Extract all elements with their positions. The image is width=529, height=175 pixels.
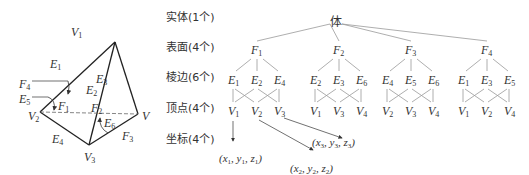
edge-node-E6: E6 [356,74,367,88]
label-E6: E6 [104,117,115,131]
coordinate-node-1: (x1, y1, z1) [219,153,262,166]
root-to-face-line [257,24,330,41]
vertex-to-coordinate-arrow [259,120,313,150]
face-to-edge-line [345,59,360,71]
vertex-node-V1: V1 [228,105,239,119]
label-V4: V [142,110,149,122]
coordinate-node-2: (x2, y2, z2) [290,163,333,175]
label-E3: E3 [96,73,107,87]
edge-node-E2: E2 [310,74,321,88]
label-F1: F1 [58,100,69,114]
face-node-F1: F1 [251,44,262,58]
edge-node-E5: E5 [405,74,416,88]
vertex-node-V2: V2 [481,105,492,119]
face-node-F3: F3 [405,44,416,58]
face-to-edge-line [466,59,481,71]
label-E4: E4 [52,133,63,147]
vertex-node-V4: V4 [428,105,439,119]
row-label: 棱边(6个) [166,72,215,83]
coordinate-node-3: (x3, y3, z3) [312,137,355,150]
face-to-edge-line [417,59,432,71]
edge-E3 [115,42,138,114]
root-solid-node: 体 [330,16,342,28]
row-label: 表面(4个) [166,42,215,53]
edge-node-E6: E6 [428,74,439,88]
root-to-face-line [342,24,411,41]
label-V3: V3 [84,151,95,165]
edge-node-E4: E4 [382,74,393,88]
vertex-node-V3: V3 [405,105,416,119]
edge-node-E2: E2 [251,74,262,88]
label-E1: E1 [50,58,61,72]
edge-node-E5: E5 [504,74,515,88]
vertex-to-coordinate-arrow [284,118,342,138]
label-F4: F4 [19,78,30,92]
row-label: 坐标(4个) [166,134,215,145]
face-to-edge-line [263,59,278,71]
vertex-node-V3: V3 [333,105,344,119]
vertex-node-V2: V2 [251,105,262,119]
edge-node-E4: E4 [274,74,285,88]
root-to-face-line [342,24,487,41]
solid-topology-diagram: V1V2V3VE1E2E3E4E5E6F1F2F3F4实体(1个)表面(4个)棱… [0,0,529,175]
label-F3: F3 [122,130,133,144]
face-to-edge-line [390,59,405,71]
vertex-node-V1: V1 [310,105,321,119]
label-F2: F2 [91,102,102,116]
edge-E5-hidden [40,112,138,114]
face-node-F2: F2 [333,44,344,58]
edge-E4 [40,112,89,145]
face-to-edge-line [236,59,251,71]
F4-arrow [68,81,69,94]
label-V2: V2 [28,110,39,124]
edge-node-E1: E1 [458,74,469,88]
face-to-edge-line [493,59,508,71]
edge-node-E3: E3 [333,74,344,88]
label-V1: V1 [71,26,82,40]
face-node-F4: F4 [481,44,492,58]
face-to-edge-line [318,59,333,71]
vertex-node-V4: V4 [504,105,515,119]
edge-node-E3: E3 [481,74,492,88]
row-label: 实体(1个) [166,12,215,23]
label-E5: E5 [19,93,30,107]
vertex-node-V4: V4 [356,105,367,119]
vertex-node-V1: V1 [458,105,469,119]
vertex-node-V2: V2 [382,105,393,119]
vertex-node-V3: V3 [274,105,285,119]
edge-node-E1: E1 [228,74,239,88]
row-label: 顶点(4个) [166,103,215,114]
